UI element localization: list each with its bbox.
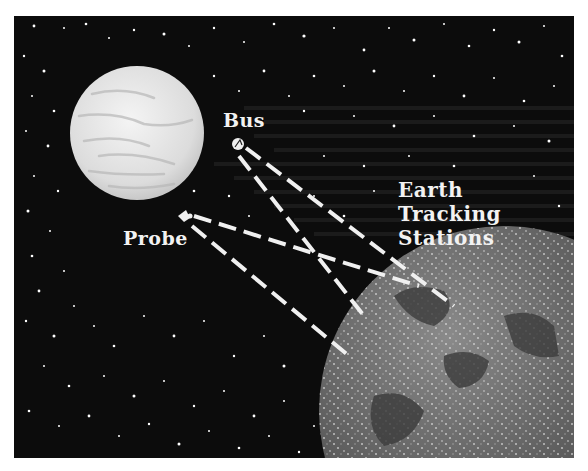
earth-tracking-stations-label: Earth Tracking Stations [398,180,501,252]
earth-label-line-1: Earth [398,180,501,201]
earth-label-line-3: Stations [398,228,501,249]
earth-label-line-2: Tracking [398,204,501,225]
bus-label: Bus [223,111,265,131]
probe-label: Probe [123,229,188,249]
signal-line-probe-2 [192,226,349,356]
probe-spacecraft [178,210,193,222]
space-illustration: Bus Probe Earth Tracking Stations [14,16,574,458]
venus-planet [70,66,204,200]
earth-globe [319,226,574,458]
bus-spacecraft [232,138,244,150]
